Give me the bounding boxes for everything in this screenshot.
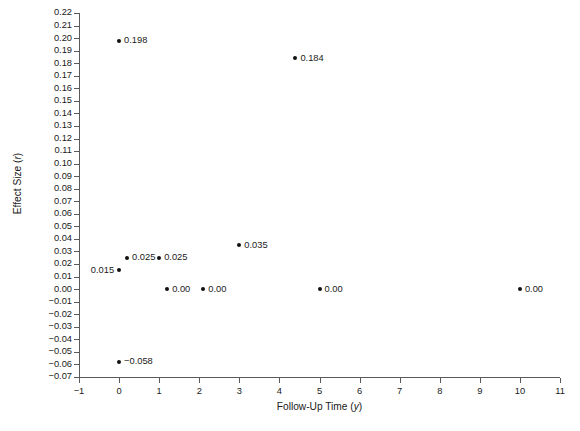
y-axis-tick-label: 0.18	[54, 59, 72, 68]
scatter-plot-figure: 0.220.210.200.190.180.170.160.150.140.13…	[0, 0, 580, 431]
y-axis-tick-label: −0.07	[48, 372, 72, 381]
x-axis-tick-label: 11	[545, 386, 575, 396]
y-axis-tick-label: 0.12	[54, 134, 72, 143]
y-axis-tick-label: 0.09	[54, 172, 72, 181]
data-point-label: 0.198	[124, 36, 147, 45]
data-point[interactable]	[157, 256, 161, 260]
x-axis-tick	[159, 378, 160, 383]
y-axis-tick-label: 0.02	[54, 259, 72, 268]
x-axis-tick	[480, 378, 481, 383]
y-axis-tick-label: 0.06	[54, 209, 72, 218]
y-axis-tick-label: −0.02	[48, 310, 72, 319]
y-axis-tick-label: 0.15	[54, 96, 72, 105]
x-axis-tick-label: 6	[345, 386, 375, 396]
y-axis-tick-label: −0.03	[48, 322, 72, 331]
x-axis-tick-label: 2	[184, 386, 214, 396]
x-axis-tick-label: 3	[224, 386, 254, 396]
data-point[interactable]	[318, 287, 322, 291]
data-point-label: −0.058	[124, 357, 153, 366]
data-point-label: 0.00	[525, 285, 543, 294]
data-point-label: 0.00	[208, 285, 226, 294]
figure-caption	[8, 421, 428, 431]
y-axis-tick-label: 0.08	[54, 184, 72, 193]
y-axis-tick-label: −0.04	[48, 335, 72, 344]
data-point-label: 0.025	[164, 253, 187, 262]
data-point-label: 0.025	[132, 253, 155, 262]
data-point[interactable]	[117, 39, 121, 43]
x-axis-tick	[320, 378, 321, 383]
plot-area	[79, 13, 560, 377]
x-axis-tick-label: 8	[425, 386, 455, 396]
data-point[interactable]	[518, 287, 522, 291]
x-axis-tick	[199, 378, 200, 383]
data-point-label: 0.015	[91, 266, 114, 275]
data-point-label: 0.00	[325, 285, 343, 294]
x-axis-tick	[360, 378, 361, 383]
x-axis-tick	[400, 378, 401, 383]
data-point-label: 0.00	[172, 285, 190, 294]
x-axis-tick-label: 9	[465, 386, 495, 396]
x-axis-tick	[560, 378, 561, 383]
x-axis-title: Follow-Up Time (y)	[79, 401, 560, 412]
x-axis-tick	[119, 378, 120, 383]
y-axis-tick-label: 0.13	[54, 121, 72, 130]
y-axis-tick-label: 0.16	[54, 84, 72, 93]
y-axis-tick-label: 0.22	[54, 8, 72, 17]
y-axis-tick-label: 0.11	[55, 146, 72, 155]
y-axis-tick-label: 0.17	[54, 71, 72, 80]
y-axis-title: Effect Size (r)	[12, 104, 23, 264]
y-axis-tick-label: −0.05	[48, 347, 72, 356]
data-point-label: 0.035	[244, 241, 267, 250]
y-axis-tick-label: 0.07	[54, 197, 72, 206]
data-point[interactable]	[117, 360, 121, 364]
y-axis-tick-label: 0.03	[54, 247, 72, 256]
x-axis-tick-label: 10	[505, 386, 535, 396]
x-axis-tick	[440, 378, 441, 383]
y-axis-tick-label: 0.19	[54, 46, 72, 55]
x-axis-tick-label: 0	[104, 386, 134, 396]
x-axis-tick-label: 7	[385, 386, 415, 396]
y-axis-tick-label: 0.21	[54, 21, 72, 30]
x-axis-tick-label: −1	[64, 386, 94, 396]
x-axis-tick-label: 5	[305, 386, 335, 396]
x-axis-tick-label: 4	[264, 386, 294, 396]
y-axis-tick-label: 0.00	[54, 285, 72, 294]
data-point[interactable]	[125, 256, 129, 260]
x-axis-tick	[239, 378, 240, 383]
y-axis-tick-label: 0.05	[54, 222, 72, 231]
x-axis-tick	[79, 378, 80, 383]
data-point-label: 0.184	[300, 54, 323, 63]
y-axis-tick-label: 0.01	[54, 272, 72, 281]
x-axis-tick	[520, 378, 521, 383]
y-axis-tick-label: 0.14	[54, 109, 72, 118]
y-axis-tick-label: 0.04	[54, 234, 72, 243]
y-axis-title-symbol: r	[12, 156, 23, 159]
y-axis-tick-label: 0.20	[54, 34, 72, 43]
y-axis-tick-label: −0.01	[48, 297, 72, 306]
x-axis-tick-label: 1	[144, 386, 174, 396]
x-axis-tick	[279, 378, 280, 383]
x-axis-title-symbol: y	[354, 401, 359, 412]
y-axis-tick-label: 0.10	[54, 159, 72, 168]
y-axis-tick-label: −0.06	[48, 360, 72, 369]
